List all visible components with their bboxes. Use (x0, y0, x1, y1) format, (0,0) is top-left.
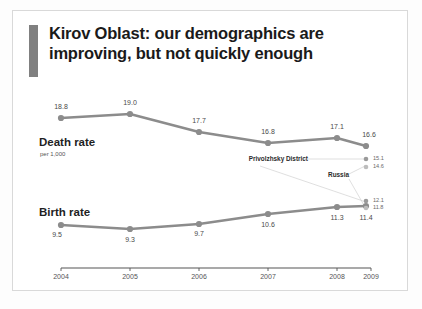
death-rate-line (61, 114, 366, 146)
death-value-label-2007: 16.8 (261, 128, 275, 135)
death-point-2007 (265, 140, 271, 146)
birth-rate-line (61, 206, 366, 229)
death-rate-series-label: Death rate (39, 136, 95, 148)
birth-point-2004 (58, 222, 64, 228)
annotation-privolzhsky-district: Privolzhsky District (249, 155, 308, 162)
death-value-label-2004: 18.8 (54, 103, 68, 110)
x-tick-label-2004: 2004 (53, 273, 69, 280)
death-point-2006 (196, 129, 202, 135)
russia-death-marker (364, 165, 369, 170)
comparator-markers (364, 157, 369, 211)
russia-death-value: 14.6 (373, 163, 384, 169)
birth-point-2008 (334, 204, 340, 210)
demographics-line-chart: 18.8 19.0 17.7 16.8 17.1 16.6 9.5 9.3 9.… (13, 11, 408, 291)
x-tick-label-2006: 2006 (191, 273, 207, 280)
chart-svg (13, 11, 408, 291)
privolzhsky-birth-marker (364, 199, 369, 204)
death-point-2004 (58, 115, 64, 121)
birth-point-2007 (265, 211, 271, 217)
annotation-russia: Russia (328, 171, 349, 178)
privolzhsky-death-marker (364, 157, 369, 162)
death-value-label-2006: 17.7 (192, 117, 206, 124)
birth-value-label-2007: 10.6 (261, 221, 275, 228)
leader-privolzhsky-bottom (260, 166, 366, 202)
slide-canvas: Kirov Oblast: our demographics are impro… (12, 10, 408, 291)
death-point-2008 (334, 135, 340, 141)
death-point-2009 (363, 143, 369, 149)
birth-value-label-2005: 9.3 (125, 236, 135, 243)
birth-value-label-2004: 9.5 (52, 231, 62, 238)
birth-value-label-2008: 11.3 (330, 214, 343, 221)
russia-birth-value: 11.8 (373, 204, 383, 210)
annotation-leader-lines (260, 159, 366, 207)
leader-russia-bottom (349, 179, 365, 207)
x-tick-label-2009: 2009 (363, 273, 379, 280)
birth-point-2005 (127, 226, 133, 232)
x-tick-label-2007: 2007 (260, 273, 276, 280)
birth-value-label-2009: 11.4 (359, 214, 372, 221)
russia-birth-marker (364, 206, 369, 211)
birth-point-2006 (196, 221, 202, 227)
privolzhsky-birth-value: 12.1 (373, 197, 384, 203)
privolzhsky-death-value: 15.1 (373, 155, 384, 161)
death-value-label-2008: 17.1 (330, 123, 344, 130)
death-value-label-2009: 16.6 (362, 131, 376, 138)
x-tick-label-2005: 2005 (122, 273, 138, 280)
death-rate-series-sublabel: per 1,000 (40, 151, 65, 157)
death-value-label-2005: 19.0 (123, 99, 137, 106)
birth-rate-series-label: Birth rate (39, 206, 90, 218)
birth-value-label-2006: 9.7 (194, 230, 204, 237)
death-point-2005 (127, 111, 133, 117)
leader-russia-top (349, 166, 365, 174)
x-tick-label-2008: 2008 (329, 273, 345, 280)
